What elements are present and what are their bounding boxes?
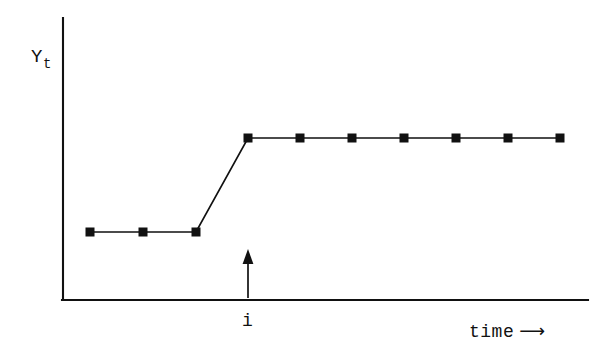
plot-canvas [0, 0, 615, 360]
x-axis-label: time⟶ [469, 322, 545, 341]
intervention-time-label: i [242, 312, 253, 330]
data-point-marker [296, 134, 305, 143]
data-point-marker [504, 134, 513, 143]
data-series-line [90, 138, 560, 232]
axes-group [62, 18, 588, 300]
intervention-arrow-icon [243, 249, 254, 298]
data-point-marker [192, 228, 201, 237]
data-point-marker [556, 134, 565, 143]
data-point-marker [400, 134, 409, 143]
y-axis-label-subscript: t [43, 56, 51, 72]
data-point-marker [86, 228, 95, 237]
time-series-figure: Yt i time⟶ [0, 0, 615, 360]
data-point-marker [139, 228, 148, 237]
intervention-arrow-head [243, 249, 254, 264]
data-point-marker [244, 134, 253, 143]
x-axis-label-text: time [469, 322, 514, 342]
y-axis-label-main: Y [31, 46, 42, 68]
series-polyline [90, 138, 560, 232]
data-point-marker [452, 134, 461, 143]
right-arrow-icon: ⟶ [519, 320, 545, 341]
y-axis-label: Yt [31, 48, 51, 71]
data-point-marker [348, 134, 357, 143]
data-point-markers [86, 134, 565, 237]
